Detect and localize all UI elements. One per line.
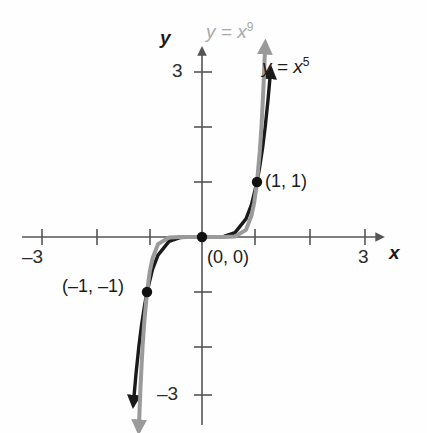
point-label-origin: (0, 0) — [207, 248, 249, 266]
x-axis-label: x — [389, 243, 400, 262]
curve-label-x9-eq: = — [221, 21, 232, 42]
curve-label-x9-base: x — [237, 21, 247, 42]
y-axis-label: y — [160, 28, 171, 47]
point-label-pos1: (1, 1) — [265, 172, 307, 190]
y-tick-label--3: –3 — [157, 384, 178, 403]
graph-figure: y x 3 –3 –3 3 y = x9 y = x5 (1, 1) (0, 0… — [0, 0, 427, 433]
x-tick-label-3: 3 — [358, 247, 369, 266]
curve-label-x5-var: y — [262, 56, 272, 77]
point-marker-pos1 — [252, 177, 262, 187]
point-marker-origin — [197, 232, 207, 242]
curve-label-x5-eq: = — [277, 56, 288, 77]
x-tick-label--3: –3 — [22, 247, 43, 266]
curve-label-x5-exp: 5 — [303, 55, 310, 69]
curve-label-x9-exp: 9 — [247, 20, 254, 34]
point-label-neg1: (–1, –1) — [62, 277, 124, 295]
curve-label-x5-base: x — [293, 56, 303, 77]
plot-canvas — [0, 0, 427, 433]
point-marker-neg1 — [142, 287, 152, 297]
curve-label-x9: y = x9 — [206, 22, 253, 41]
y-tick-label-3: 3 — [172, 61, 183, 80]
curve-label-x5: y = x5 — [262, 57, 309, 76]
curve-label-x9-var: y — [206, 21, 216, 42]
